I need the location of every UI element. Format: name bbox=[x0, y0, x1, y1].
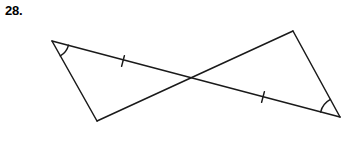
geometry-exercise-figure: 28. bbox=[0, 0, 363, 145]
congruence-tick-marks-group bbox=[122, 56, 265, 103]
segment-bottom-left-to-top-right bbox=[97, 31, 293, 121]
tick-upper-segment-tick bbox=[122, 56, 125, 67]
triangle-segments-group bbox=[52, 31, 340, 121]
right-vertex-angle-arc bbox=[321, 99, 331, 111]
segment-top-right-to-right-apex bbox=[293, 31, 340, 117]
bowtie-triangles-diagram bbox=[0, 0, 363, 145]
segment-left-apex-to-bottom-left bbox=[52, 41, 97, 121]
segment-left-apex-to-right-apex bbox=[52, 41, 340, 117]
left-vertex-angle-arc bbox=[60, 45, 68, 55]
